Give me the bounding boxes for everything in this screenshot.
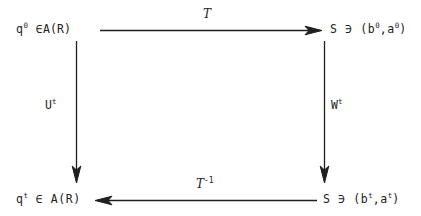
node-top-right-a: a (387, 22, 395, 36)
node-bottom-right-a: a (380, 192, 388, 206)
arrow-bottom-T-inverse (95, 196, 317, 205)
arrow-right-W (320, 41, 329, 183)
node-top-right: S ∋ (b0,a0) (330, 24, 407, 36)
edge-label-top-T: T (203, 8, 211, 20)
arrow-top-T (100, 26, 322, 35)
node-top-left: q0 ∈A(R) (16, 24, 71, 36)
node-bottom-right-close-paren: ) (392, 192, 400, 206)
node-top-right-open-paren: ( (360, 22, 368, 36)
element-of-icon: ∈ (36, 192, 44, 206)
node-bottom-right-open-paren: ( (353, 192, 361, 206)
edge-label-bottom-text: T (196, 177, 204, 191)
node-top-right-set: S (330, 22, 338, 36)
edge-label-bottom-T-inverse: T-1 (196, 178, 214, 190)
node-bottom-right-set: S (323, 192, 331, 206)
node-bottom-right: S ∋ (bt,at) (323, 194, 400, 206)
contains-as-member-icon: ∋ (345, 22, 353, 36)
node-bottom-left-superscript: t (24, 191, 29, 200)
node-bottom-left-variable: q (16, 192, 24, 206)
edge-label-left-U: Ut (45, 100, 56, 112)
node-top-right-close-paren: ) (399, 22, 407, 36)
commutative-diagram: q0 ∈A(R) S ∋ (b0,a0) qt ∈ A(R) S ∋ (bt,a… (0, 0, 421, 216)
edge-label-right-text: W (331, 98, 338, 112)
edge-label-right-superscript: t (338, 97, 343, 106)
edge-label-left-superscript: t (52, 97, 57, 106)
edge-label-top-text: T (203, 7, 211, 21)
edge-label-bottom-superscript: -1 (204, 176, 214, 185)
node-top-left-variable: q (16, 22, 24, 36)
edge-label-left-text: U (45, 98, 52, 112)
node-top-left-set: A(R) (43, 22, 71, 36)
contains-as-member-icon: ∋ (338, 192, 346, 206)
element-of-icon: ∈ (36, 22, 44, 36)
edge-label-right-W: Wt (331, 100, 342, 112)
node-top-left-superscript: 0 (24, 21, 29, 30)
node-bottom-left: qt ∈ A(R) (16, 194, 81, 206)
arrow-left-U (72, 41, 81, 183)
node-bottom-left-set: A(R) (51, 192, 81, 206)
